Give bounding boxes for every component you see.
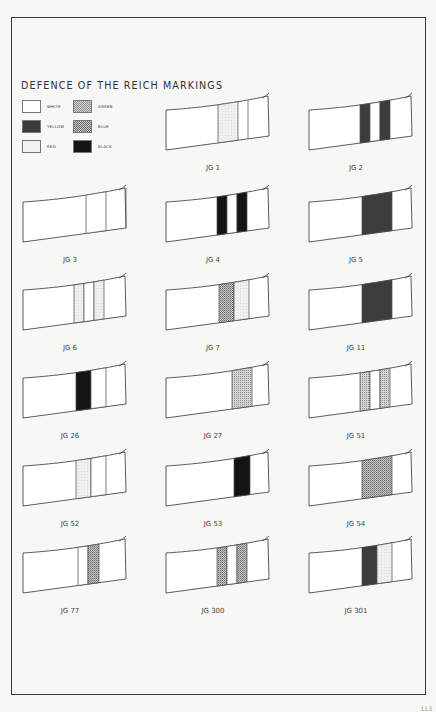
unit-label: JG 300 <box>200 607 224 615</box>
unit-marking-jg-4: JG 4 <box>166 185 269 264</box>
unit-label: JG 53 <box>203 520 223 528</box>
band-white <box>78 546 88 586</box>
band-red <box>76 458 91 498</box>
band-red <box>377 543 392 584</box>
band-red <box>218 102 238 143</box>
unit-label: JG 51 <box>346 432 366 440</box>
unit-marking-jg-26: JG 26 <box>23 361 126 440</box>
band-green <box>380 368 390 408</box>
fuselage-outline <box>309 539 412 593</box>
unit-marking-jg-51: JG 51 <box>309 361 412 440</box>
fuselage-outline <box>23 188 126 242</box>
unit-marking-jg-77: JG 77 <box>23 536 126 615</box>
fuselage-outline <box>309 188 412 242</box>
unit-label: JG 301 <box>343 607 367 615</box>
unit-label: JG 3 <box>62 256 77 264</box>
band-yellow <box>360 104 370 144</box>
unit-label: JG 11 <box>346 344 366 352</box>
unit-label: JG 2 <box>348 164 363 172</box>
band-yellow <box>362 280 392 323</box>
fuselage-outline <box>23 452 126 506</box>
unit-label: JG 7 <box>205 344 220 352</box>
band-green <box>360 372 370 412</box>
unit-label: JG 4 <box>205 256 221 264</box>
unit-marking-jg-3: JG 3 <box>23 185 126 264</box>
unit-label: JG 1 <box>205 164 220 172</box>
unit-marking-jg-54: JG 54 <box>309 449 412 528</box>
band-white <box>84 282 94 322</box>
unit-marking-jg-11: JG 11 <box>309 273 412 352</box>
band-white <box>86 192 106 234</box>
band-white <box>91 456 106 497</box>
band-white <box>227 194 237 234</box>
band-yellow <box>362 192 392 235</box>
markings-diagram: JG 1JG 2JG 3JG 4JG 5JG 6JG 7JG 11JG 26JG… <box>0 0 436 712</box>
band-red <box>74 284 84 324</box>
band-yellow <box>362 545 377 585</box>
band-blue <box>217 547 227 587</box>
band-black <box>217 196 227 236</box>
fuselage-outline <box>309 276 412 330</box>
unit-marking-jg-2: JG 2 <box>309 93 412 172</box>
fuselage-outline <box>166 96 269 150</box>
band-blue <box>219 282 234 322</box>
band-blue <box>88 544 99 584</box>
band-blue <box>237 543 247 583</box>
fuselage-outline <box>166 276 269 330</box>
band-blue <box>362 456 392 499</box>
band-white <box>370 102 380 142</box>
unit-label: JG 5 <box>348 256 363 264</box>
unit-label: JG 54 <box>346 520 366 528</box>
unit-label: JG 52 <box>60 520 80 528</box>
unit-label: JG 26 <box>60 432 80 440</box>
band-red <box>94 280 104 320</box>
unit-marking-jg-301: JG 301 <box>309 536 412 615</box>
band-yellow <box>380 100 390 140</box>
unit-label: JG 6 <box>62 344 78 352</box>
unit-marking-jg-300: JG 300 <box>166 536 269 615</box>
band-black <box>234 456 250 497</box>
band-green <box>232 367 252 409</box>
unit-marking-jg-1: JG 1 <box>166 93 269 172</box>
band-white <box>227 545 237 585</box>
band-white <box>370 370 380 410</box>
fuselage-outline <box>166 452 269 506</box>
unit-marking-jg-27: JG 27 <box>166 361 269 440</box>
unit-marking-jg-6: JG 6 <box>23 273 126 352</box>
unit-label: JG 77 <box>60 607 80 615</box>
unit-marking-jg-53: JG 53 <box>166 449 269 528</box>
unit-marking-jg-7: JG 7 <box>166 273 269 352</box>
fuselage-outline <box>23 364 126 418</box>
fuselage-outline <box>309 452 412 506</box>
band-black <box>76 370 91 410</box>
fuselage-outline <box>166 364 269 418</box>
band-white <box>91 368 106 409</box>
unit-label: JG 27 <box>203 432 223 440</box>
page-number: 113 <box>421 705 432 712</box>
unit-marking-jg-52: JG 52 <box>23 449 126 528</box>
band-black <box>237 192 247 232</box>
unit-marking-jg-5: JG 5 <box>309 185 412 264</box>
fuselage-outline <box>23 539 126 593</box>
band-red <box>234 280 249 321</box>
